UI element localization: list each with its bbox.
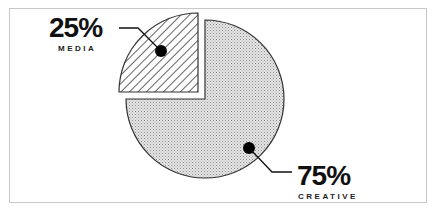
media-label: MEDIA — [58, 45, 96, 53]
creative-percent: 75% — [297, 162, 350, 190]
creative-label: CREATIVE — [298, 193, 358, 201]
media-callout-dot — [155, 45, 167, 57]
media-percent: 25% — [49, 14, 102, 42]
